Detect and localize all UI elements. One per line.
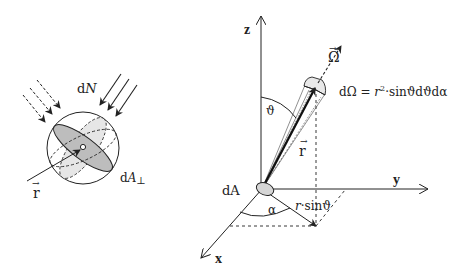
area-element-label: dA	[222, 183, 240, 198]
projection-label: r·sinϑ	[295, 199, 331, 213]
solid-angle-formula: dΩ = r2·sinϑdϑdα	[339, 84, 447, 99]
dashed-incoming-rays	[23, 80, 60, 122]
azimuth-angle-label: α	[268, 203, 276, 217]
y-axis-label: y	[393, 172, 400, 187]
x-axis	[201, 189, 262, 258]
azimuth-angle-arc	[240, 208, 290, 216]
center-point	[80, 144, 85, 149]
solid-incoming-rays	[100, 74, 137, 116]
solid-angle-diagram: z y x Ω →	[201, 16, 447, 266]
polar-angle-label: ϑ	[266, 104, 275, 118]
radius-arrow-glyph: →	[300, 136, 308, 146]
area-perp-label: dA⊥	[120, 171, 146, 186]
x-axis-label: x	[215, 251, 222, 266]
diagram-canvas: dN dA⊥ r → z y x	[0, 0, 461, 277]
direction-arrow-glyph: →	[329, 43, 337, 53]
area-element-dA	[254, 180, 275, 197]
cone-cap	[304, 77, 326, 95]
flux-sphere-diagram: dN dA⊥ r →	[23, 74, 146, 201]
vector-arrow-glyph: →	[32, 178, 40, 188]
flux-label: dN	[77, 81, 97, 96]
z-axis-label: z	[244, 22, 250, 37]
